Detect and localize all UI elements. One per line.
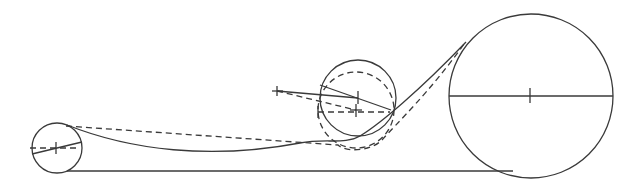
idler-solid (277, 60, 396, 136)
idler-dashed (277, 72, 394, 148)
diagram-svg (0, 0, 628, 181)
belt-upper-dashed (66, 44, 464, 150)
belt-upper-solid (67, 42, 466, 151)
small-pulley (30, 123, 82, 173)
large-pulley (449, 14, 613, 178)
belt-drive-diagram (0, 0, 628, 181)
pivot-marker (272, 86, 283, 96)
